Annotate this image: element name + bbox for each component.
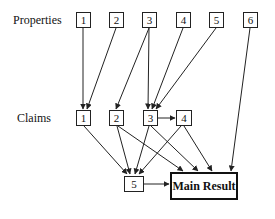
property-2-box: 2 [109, 12, 124, 28]
claim-4-box: 4 [176, 110, 192, 126]
edge-c3-c5 [135, 126, 149, 174]
edge-p6-main [231, 28, 250, 171]
claims-row-label: Claims [17, 111, 51, 126]
property-1-box: 1 [76, 12, 91, 28]
edge-p3-c3 [148, 28, 149, 109]
property-6-box: 6 [243, 12, 258, 28]
edge-p5-c3 [156, 28, 216, 109]
edge-c4-main [184, 126, 212, 171]
claim-5-box: 5 [124, 176, 144, 192]
claim-3-box: 3 [143, 110, 158, 126]
property-3-box: 3 [142, 12, 157, 28]
claim-1-box: 1 [76, 110, 91, 126]
property-5-box: 5 [209, 12, 224, 28]
edge-p2-c1 [87, 28, 116, 109]
property-4-box: 4 [176, 12, 191, 28]
main-result-box: Main Result [170, 172, 238, 200]
properties-row-label: Properties [13, 13, 62, 28]
edge-c4-c5 [139, 126, 181, 174]
edge-c1-c5 [84, 126, 127, 174]
edge-p4-c3 [152, 28, 183, 109]
claim-2-box: 2 [109, 110, 124, 126]
edge-p3-c2 [116, 28, 149, 109]
